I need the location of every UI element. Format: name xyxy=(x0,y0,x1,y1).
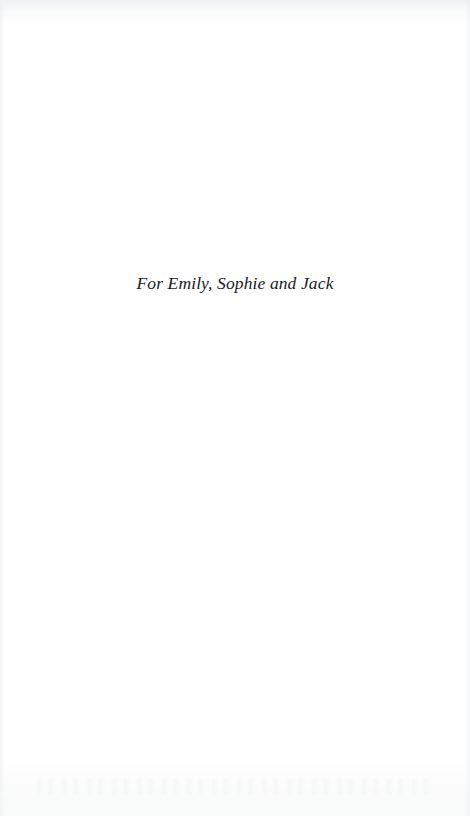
dedication-text: For Emily, Sophie and Jack xyxy=(136,272,333,294)
dedication-page: For Emily, Sophie and Jack xyxy=(0,0,470,816)
dedication-block: For Emily, Sophie and Jack xyxy=(0,272,470,294)
scan-noise-top xyxy=(0,0,470,26)
page-right-edge-shading xyxy=(465,0,470,816)
scan-noise-bottom xyxy=(0,756,470,816)
page-bleed-through-artifact xyxy=(36,778,434,794)
page-left-edge-shading xyxy=(0,0,5,816)
